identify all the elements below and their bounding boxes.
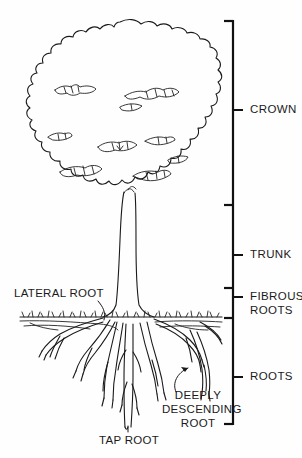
deeply-descending-line-3: ROOT	[162, 416, 234, 430]
trunk	[103, 186, 154, 317]
zone-label-fibrous-roots-line2: ROOTS	[250, 304, 293, 317]
deeply-descending-line-2: DESCENDING	[162, 402, 234, 416]
ground-line	[20, 311, 222, 317]
grass-tufts	[22, 311, 219, 317]
callout-label-lateral-root: LATERAL ROOT	[14, 286, 104, 300]
callout-label-deeply-descending-root: DEEPLY DESCENDING ROOT	[162, 388, 234, 430]
crown-outline	[26, 20, 222, 185]
zone-label-roots: ROOTS	[250, 370, 293, 383]
zone-label-crown: CROWN	[250, 103, 297, 116]
deeply-descending-line-1: DEEPLY	[162, 388, 234, 402]
callout-label-tap-root: TAP ROOT	[99, 433, 159, 447]
zone-bracket	[224, 20, 243, 425]
fibrous-roots	[20, 321, 222, 330]
tree-anatomy-diagram: CROWN TRUNK FIBROUS ROOTS ROOTS LATERAL …	[0, 0, 302, 458]
zone-label-fibrous-roots-line1: FIBROUS	[250, 290, 302, 303]
tree-illustration	[0, 0, 302, 458]
zone-label-trunk: TRUNK	[250, 248, 292, 261]
